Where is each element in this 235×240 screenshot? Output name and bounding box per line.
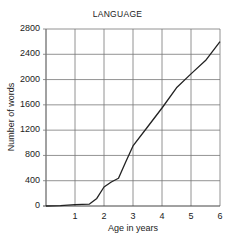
y-tick-label: 2800 (6, 23, 40, 33)
x-tick-label: 2 (98, 211, 110, 221)
y-tick-label: 400 (6, 175, 40, 185)
x-tick-label: 5 (185, 211, 197, 221)
x-axis-title: Age in years (46, 223, 220, 233)
x-tick-label: 3 (127, 211, 139, 221)
grid-lines (43, 29, 220, 206)
y-tick-label: 0 (6, 200, 40, 210)
x-tick-label: 6 (214, 211, 226, 221)
x-tick-label: 1 (69, 211, 81, 221)
y-axis-title: Number of words (6, 82, 16, 152)
y-tick-label: 2400 (6, 48, 40, 58)
x-tick-label: 4 (156, 211, 168, 221)
